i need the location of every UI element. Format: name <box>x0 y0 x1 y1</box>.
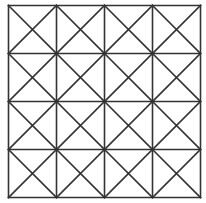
grid-diagram <box>0 0 206 203</box>
